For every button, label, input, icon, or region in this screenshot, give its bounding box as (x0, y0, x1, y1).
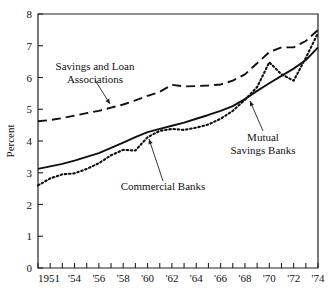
commercial-banks-label-leader-line (149, 139, 163, 181)
x-axis-tick-label: '68 (238, 272, 251, 284)
chart-container: 0123456781951'54'56'58'60'62'64'66'68'70… (0, 0, 331, 297)
x-axis-tick-label: '56 (92, 272, 105, 284)
x-axis-tick-label: '54 (68, 272, 81, 284)
mutual-savings-banks-label: Savings Banks (230, 144, 295, 156)
line-chart: 0123456781951'54'56'58'60'62'64'66'68'70… (0, 0, 331, 297)
x-axis-tick-label: '74 (312, 272, 325, 284)
y-axis-tick-label: 0 (27, 262, 33, 274)
x-axis-tick-label: '64 (190, 272, 203, 284)
x-axis-tick-label: '70 (263, 272, 276, 284)
x-axis-tick-label: '72 (287, 272, 300, 284)
savings-and-loan-label: Associations (67, 73, 123, 85)
commercial-banks-label: Commercial Banks (121, 180, 206, 192)
x-axis-tick-label: '62 (165, 272, 178, 284)
y-axis-tick-label: 7 (27, 40, 33, 52)
y-axis-tick-label: 3 (27, 167, 33, 179)
y-axis-tick-label: 5 (27, 103, 33, 115)
y-axis-title: Percent (4, 125, 16, 158)
y-axis-tick-label: 8 (27, 8, 33, 20)
y-axis-tick-label: 4 (27, 135, 33, 147)
data-series (38, 30, 318, 186)
commercial-banks-label-arrowhead (148, 139, 152, 144)
x-axis-tick-label: 1951 (38, 272, 60, 284)
mutual-savings-banks-label: Mutual (247, 131, 279, 143)
y-axis-tick-label: 1 (27, 230, 33, 242)
savings-and-loan-label: Savings and Loan (56, 60, 135, 72)
savings-and-loan-label-arrowhead (105, 99, 110, 104)
x-axis-tick-label: '58 (117, 272, 130, 284)
y-axis-tick-label: 2 (27, 199, 33, 211)
x-axis-tick-label: '60 (141, 272, 154, 284)
series-line-mutual-savings-banks (38, 33, 318, 185)
x-axis-tick-label: '66 (214, 272, 227, 284)
y-axis-tick-label: 6 (27, 72, 33, 84)
